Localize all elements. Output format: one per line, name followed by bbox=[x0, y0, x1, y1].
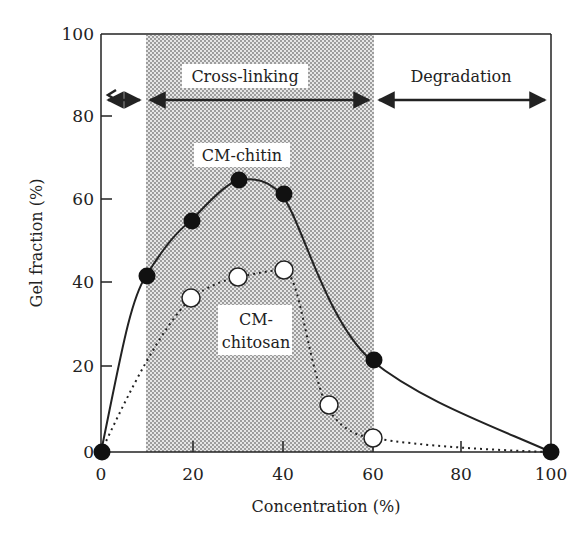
data-point bbox=[94, 444, 111, 461]
x-tick-40: 40 bbox=[272, 464, 294, 484]
data-point bbox=[366, 352, 383, 369]
y-axis-title: Gel fraction (%) bbox=[27, 179, 46, 308]
y-tick-60: 60 bbox=[72, 189, 94, 209]
y-tick-20: 20 bbox=[72, 356, 94, 376]
data-point bbox=[182, 289, 200, 307]
y-tick-100: 100 bbox=[62, 24, 94, 44]
gel-fraction-chart: 100 80 60 40 20 0 0 20 40 60 80 100 Conc… bbox=[0, 0, 586, 542]
data-point bbox=[231, 172, 248, 189]
data-point bbox=[229, 268, 247, 286]
cm-chitosan-label-line1: CM- bbox=[239, 310, 273, 329]
data-point bbox=[275, 261, 293, 279]
data-point bbox=[139, 268, 156, 285]
cross-linking-label: Cross-linking bbox=[191, 67, 298, 86]
y-tick-80: 80 bbox=[72, 106, 94, 126]
degradation-label: Degradation bbox=[411, 67, 512, 86]
y-tick-40: 40 bbox=[72, 272, 94, 292]
cm-chitosan-label-line2: chitosan bbox=[222, 333, 291, 352]
cross-linking-region bbox=[146, 35, 374, 452]
x-tick-labels: 0 20 40 60 80 100 bbox=[96, 464, 568, 484]
data-point bbox=[276, 186, 293, 203]
x-tick-60: 60 bbox=[362, 464, 384, 484]
x-axis-title: Concentration (%) bbox=[252, 497, 401, 516]
x-tick-80: 80 bbox=[450, 464, 472, 484]
data-point bbox=[184, 213, 201, 230]
x-tick-100: 100 bbox=[535, 464, 567, 484]
data-point bbox=[543, 444, 560, 461]
data-point bbox=[320, 396, 338, 414]
cm-chitin-label: CM-chitin bbox=[202, 146, 282, 165]
x-tick-0: 0 bbox=[96, 464, 107, 484]
y-tick-labels: 100 80 60 40 20 0 bbox=[62, 24, 94, 462]
data-point bbox=[364, 429, 382, 447]
x-tick-20: 20 bbox=[182, 464, 204, 484]
y-axis bbox=[101, 116, 112, 366]
y-tick-0: 0 bbox=[83, 442, 94, 462]
